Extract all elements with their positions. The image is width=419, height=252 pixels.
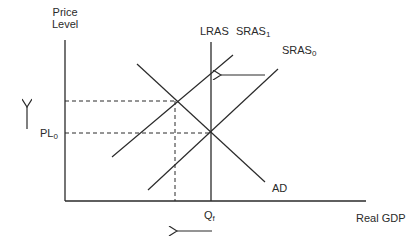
- qf-label-sub: f: [213, 214, 215, 223]
- sras0-label-sub: 0: [312, 49, 316, 58]
- sras1-curve: [112, 55, 233, 157]
- x-axis-label: Real GDP: [356, 212, 406, 224]
- qf-tick-label: Qf: [204, 209, 215, 221]
- ad-label: AD: [272, 182, 287, 194]
- sras0-label: SRAS0: [282, 44, 316, 56]
- y-axis-label-line1: Price: [52, 6, 78, 18]
- sras0-curve: [148, 69, 278, 190]
- pl0-label-sub: 0: [53, 132, 57, 141]
- sras1-label: SRAS1: [236, 25, 270, 37]
- sras1-label-main: SRAS: [236, 25, 266, 37]
- pl0-tick-label: PL0: [40, 127, 58, 139]
- pl0-label-main: PL: [40, 127, 53, 139]
- y-axis-label: Price Level: [52, 6, 78, 30]
- lras-label: LRAS: [200, 25, 229, 37]
- sras1-label-sub: 1: [266, 30, 270, 39]
- qf-label-main: Q: [204, 209, 213, 221]
- sras0-label-main: SRAS: [282, 44, 312, 56]
- y-axis-label-line2: Level: [52, 18, 78, 30]
